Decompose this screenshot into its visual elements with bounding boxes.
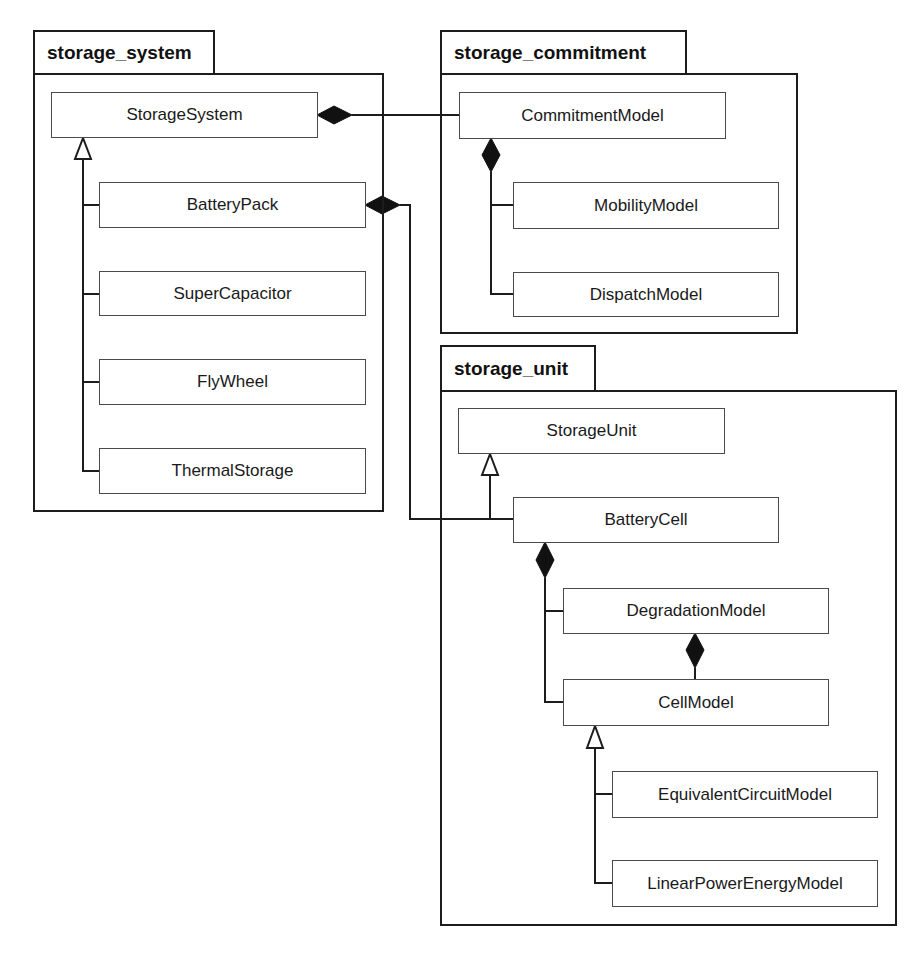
class-linear-power-energy-model[interactable]: LinearPowerEnergyModel: [612, 860, 878, 907]
class-fly-wheel[interactable]: FlyWheel: [99, 359, 366, 405]
package-tab-storage-unit: storage_unit: [440, 345, 596, 391]
class-storage-system[interactable]: StorageSystem: [51, 92, 318, 138]
package-body-storage-unit: [440, 390, 897, 926]
class-label: DegradationModel: [627, 601, 766, 621]
class-thermal-storage[interactable]: ThermalStorage: [99, 448, 366, 494]
class-label: ThermalStorage: [172, 461, 294, 481]
class-dispatch-model[interactable]: DispatchModel: [513, 272, 779, 317]
class-label: CommitmentModel: [521, 106, 664, 126]
class-label: BatteryCell: [604, 510, 687, 530]
package-label-storage-system: storage_system: [47, 42, 192, 64]
package-label-storage-unit: storage_unit: [454, 358, 568, 380]
class-label: LinearPowerEnergyModel: [647, 874, 843, 894]
class-battery-pack[interactable]: BatteryPack: [99, 182, 366, 228]
class-label: CellModel: [658, 693, 734, 713]
class-super-capacitor[interactable]: SuperCapacitor: [99, 271, 366, 316]
class-mobility-model[interactable]: MobilityModel: [513, 182, 779, 229]
class-label: DispatchModel: [590, 285, 702, 305]
class-label: StorageSystem: [126, 105, 242, 125]
class-battery-cell[interactable]: BatteryCell: [513, 497, 779, 543]
class-storage-unit[interactable]: StorageUnit: [458, 408, 725, 454]
class-equivalent-circuit-model[interactable]: EquivalentCircuitModel: [612, 771, 878, 818]
class-commitment-model[interactable]: CommitmentModel: [459, 92, 726, 139]
class-label: BatteryPack: [187, 195, 279, 215]
package-label-storage-commitment: storage_commitment: [454, 42, 646, 64]
class-cell-model[interactable]: CellModel: [563, 679, 829, 726]
class-label: MobilityModel: [594, 196, 698, 216]
class-label: EquivalentCircuitModel: [658, 785, 832, 805]
package-tab-storage-commitment: storage_commitment: [440, 30, 687, 74]
package-tab-storage-system: storage_system: [33, 30, 215, 74]
class-label: FlyWheel: [197, 372, 268, 392]
class-degradation-model[interactable]: DegradationModel: [563, 588, 829, 634]
class-label: StorageUnit: [547, 421, 637, 441]
class-label: SuperCapacitor: [173, 284, 291, 304]
